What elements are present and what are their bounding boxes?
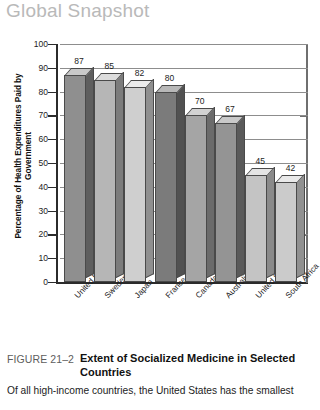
y-tick-label: 50 [26, 158, 48, 168]
bar [185, 115, 207, 282]
bar-side-face [146, 79, 154, 278]
y-tick-label: 100 [26, 39, 48, 49]
y-tick-label: 80 [26, 87, 48, 97]
bar [275, 182, 297, 282]
bar [64, 75, 86, 282]
bar-front-face [124, 87, 146, 282]
y-tick-mark [48, 163, 57, 164]
bar-value-label: 82 [124, 68, 154, 78]
y-tick-mark [48, 282, 57, 283]
y-tick-label: 90 [26, 63, 48, 73]
y-tick-mark [48, 139, 57, 140]
bar-value-label: 87 [64, 56, 94, 66]
bar-front-face [94, 80, 116, 282]
y-tick-mark [48, 44, 57, 45]
gridline [60, 44, 308, 45]
bar-side-face [237, 114, 245, 278]
bar-side-face [177, 84, 185, 278]
bar-side-face [297, 174, 305, 278]
y-tick-label: 30 [26, 206, 48, 216]
y-tick-mark [48, 211, 57, 212]
bar-value-label: 67 [215, 104, 245, 114]
bar-front-face [245, 175, 267, 282]
bar-front-face [215, 123, 237, 282]
bar-value-label: 42 [275, 163, 305, 173]
figure-title: Extent of Socialized Medicine in Selecte… [80, 352, 312, 379]
y-tick-label: 20 [26, 229, 48, 239]
bar-front-face [64, 75, 86, 282]
bar-value-label: 70 [185, 96, 215, 106]
bar-front-face [185, 115, 207, 282]
figure-body-text: Of all high-income countries, the United… [7, 384, 320, 397]
plot-区: 8785828070674542 [60, 44, 308, 282]
y-tick-mark [48, 258, 57, 259]
bar-side-face [207, 107, 215, 278]
figure-number: FIGURE 21–2 [7, 353, 74, 365]
bar [245, 175, 267, 282]
y-tick-mark [48, 234, 57, 235]
bar-front-face [155, 92, 177, 282]
y-tick-label: 70 [26, 110, 48, 120]
y-tick-mark [48, 92, 57, 93]
bar-side-face [267, 167, 275, 278]
bar [94, 80, 116, 282]
y-tick-mark [48, 115, 57, 116]
bar-value-label: 45 [245, 156, 275, 166]
figure-page: Global Snapshot Percentage of Health Exp… [0, 0, 320, 410]
bar [124, 87, 146, 282]
bar-side-face [86, 67, 94, 278]
y-tick-label: 40 [26, 182, 48, 192]
global-snapshot-banner: Global Snapshot [6, 0, 150, 22]
bar [215, 123, 237, 282]
y-tick-label: 0 [26, 277, 48, 287]
bar-value-label: 85 [94, 61, 124, 71]
y-tick-label: 10 [26, 253, 48, 263]
bar-chart: Percentage of Health Expenditures Paid b… [0, 28, 320, 338]
y-tick-mark [48, 68, 57, 69]
y-tick-mark [48, 187, 57, 188]
bar-value-label: 80 [155, 73, 185, 83]
bar-front-face [275, 182, 297, 282]
bar [155, 92, 177, 282]
bar-side-face [116, 72, 124, 278]
y-tick-label: 60 [26, 134, 48, 144]
